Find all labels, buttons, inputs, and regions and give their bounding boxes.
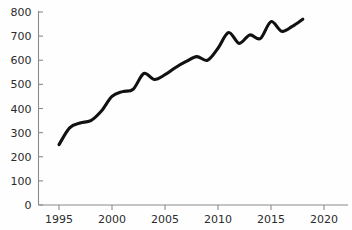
x-tick-label: 1995 bbox=[45, 213, 73, 226]
y-tick-label: 100 bbox=[11, 175, 32, 188]
data-series-group bbox=[59, 19, 303, 144]
x-tick-label: 2015 bbox=[257, 213, 285, 226]
y-tick-label: 200 bbox=[11, 151, 32, 164]
series-line-1 bbox=[59, 19, 303, 144]
y-tick-label: 0 bbox=[25, 199, 32, 212]
y-tick-label: 300 bbox=[11, 127, 32, 140]
y-tick-label: 600 bbox=[11, 54, 32, 67]
y-tick-label: 500 bbox=[11, 78, 32, 91]
chart-container: 0100200300400500600700800 19952000200520… bbox=[0, 0, 352, 230]
x-tick-label: 2000 bbox=[98, 213, 126, 226]
x-tick-label: 2005 bbox=[151, 213, 179, 226]
y-axis-tick-labels: 0100200300400500600700800 bbox=[11, 6, 32, 212]
x-tick-label: 2020 bbox=[310, 213, 338, 226]
x-axis-tick-labels: 199520002005201020152020 bbox=[45, 213, 338, 226]
line-chart: 0100200300400500600700800 19952000200520… bbox=[0, 0, 352, 230]
y-tick-label: 400 bbox=[11, 103, 32, 116]
y-axis-tick-marks bbox=[39, 12, 44, 205]
x-tick-label: 2010 bbox=[204, 213, 232, 226]
y-tick-label: 800 bbox=[11, 6, 32, 19]
y-tick-label: 700 bbox=[11, 30, 32, 43]
x-axis-tick-marks bbox=[59, 205, 324, 210]
